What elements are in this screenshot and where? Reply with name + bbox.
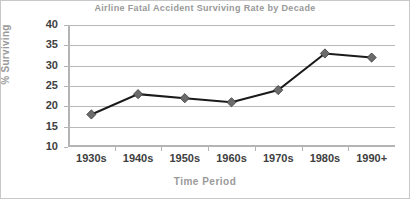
data-point-marker bbox=[367, 53, 376, 62]
data-point-marker bbox=[180, 94, 189, 103]
data-series bbox=[68, 25, 395, 147]
y-axis-title: % Surviving bbox=[0, 0, 11, 115]
x-axis-tick-label: 1940s bbox=[115, 153, 161, 164]
x-axis-tick bbox=[208, 147, 209, 151]
x-axis-tick bbox=[348, 147, 349, 151]
x-axis-title: Time Period bbox=[1, 176, 409, 187]
x-axis-tick-label: 1970s bbox=[255, 153, 301, 164]
y-axis-tick-label: 30 bbox=[32, 60, 58, 71]
data-point-marker bbox=[227, 98, 236, 107]
x-axis-tick-label: 1990+ bbox=[349, 153, 395, 164]
x-axis-tick-label: 1960s bbox=[209, 153, 255, 164]
y-axis-tick-label: 35 bbox=[32, 39, 58, 50]
x-axis-tick bbox=[161, 147, 162, 151]
x-axis-tick bbox=[255, 147, 256, 151]
x-axis-tick-label: 1980s bbox=[302, 153, 348, 164]
y-axis-tick-label: 15 bbox=[32, 121, 58, 132]
y-axis-tick-label: 40 bbox=[32, 19, 58, 30]
x-axis-tick-label: 1930s bbox=[68, 153, 114, 164]
x-axis-tick bbox=[302, 147, 303, 151]
chart-title: Airline Fatal Accident Surviving Rate by… bbox=[1, 3, 409, 13]
y-axis-tick-label: 25 bbox=[32, 80, 58, 91]
x-axis-tick bbox=[115, 147, 116, 151]
chart-container: Airline Fatal Accident Surviving Rate by… bbox=[0, 0, 410, 199]
data-point-marker bbox=[87, 110, 96, 119]
y-axis-tick bbox=[64, 147, 68, 148]
x-axis-tick-label: 1950s bbox=[162, 153, 208, 164]
y-axis-tick-label: 20 bbox=[32, 100, 58, 111]
plot-area bbox=[68, 25, 395, 147]
data-point-marker bbox=[133, 90, 142, 99]
y-axis-tick-label: 10 bbox=[32, 141, 58, 152]
